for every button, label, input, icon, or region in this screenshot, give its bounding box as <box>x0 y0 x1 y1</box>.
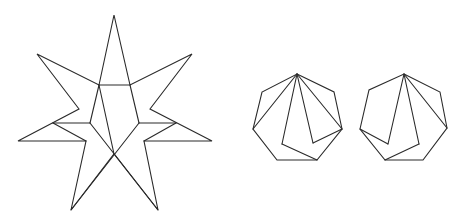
seven-pointed-star-dissection-outline <box>18 15 212 210</box>
seven-pointed-star-dissection-segment <box>90 85 99 123</box>
seven-pointed-star-dissection-segment <box>130 85 139 123</box>
heptagon-dissection-1-segment <box>313 129 342 143</box>
heptagon-dissection-2-segment <box>385 144 419 160</box>
heptagon-right <box>360 74 447 160</box>
heptagon-dissection-2-segment <box>388 74 404 144</box>
heptagon-dissection-2-segment <box>360 129 388 144</box>
heptagon-dissection-1-segment <box>282 144 317 160</box>
heptagon-dissection-2-segment <box>404 74 447 128</box>
seven-pointed-star <box>18 15 212 210</box>
heptagon-left <box>253 74 342 160</box>
geometry-figure <box>0 0 458 221</box>
heptagon-dissection-1-outline <box>253 74 342 160</box>
heptagon-dissection-2-outline <box>360 74 447 160</box>
seven-pointed-star-dissection-segment <box>90 123 158 210</box>
seven-pointed-star-dissection-segment <box>71 123 139 210</box>
heptagon-dissection-1-segment <box>282 74 297 144</box>
seven-pointed-star-dissection-segment <box>144 123 176 141</box>
seven-pointed-star-dissection-segment <box>53 123 86 141</box>
heptagon-dissection-2-segment <box>404 74 419 144</box>
